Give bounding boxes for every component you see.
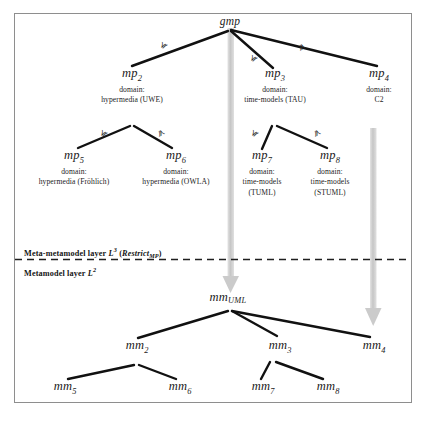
node-mp7-subscript: 7: [268, 156, 272, 165]
node-mp4-label: mp4: [366, 66, 392, 84]
edge-gmp-mp4: [231, 30, 377, 66]
upper-layer-qualifier-close: ): [159, 249, 162, 258]
node-mmUML-subscript: UML: [228, 296, 246, 305]
node-mp7[interactable]: mp7 domain: time-models (TUML): [242, 148, 281, 198]
edge-mm2-mm6: [139, 365, 176, 379]
node-mp3[interactable]: mp3 domain: time-models (TAU): [244, 66, 306, 106]
upper-layer-qualifier-sub: MP: [149, 252, 159, 259]
upper-layer-prefix: Meta-metamodel layer: [24, 249, 106, 258]
edge-mp2-mp5: [78, 126, 130, 148]
node-mp8-domain-label: domain:: [310, 167, 349, 177]
node-mm5-label: mm5: [54, 379, 77, 397]
node-gmp[interactable]: gmp: [220, 14, 240, 29]
lower-layer-prefix: Metamodel layer: [24, 269, 86, 278]
node-mp7-domain-value: time-models: [242, 177, 281, 187]
node-mp5[interactable]: mp5 domain: hypermedia (Fröhlich): [39, 148, 110, 188]
node-mm3-label: mm3: [269, 338, 292, 356]
node-mm8[interactable]: mm8: [317, 379, 340, 398]
figure-canvas: gmp mp2 domain: hypermedia (UWE) mp3 dom…: [0, 0, 428, 421]
node-mp5-domain-value: hypermedia (Fröhlich): [39, 177, 110, 187]
edge-mp2-mp6: [134, 126, 172, 148]
node-mp2-subscript: 2: [138, 74, 142, 83]
node-mp8-subscript: 8: [336, 156, 340, 165]
layer-label-metamodel: Metamodel layer L2: [24, 266, 96, 278]
node-mp2-domain-value: hypermedia (UWE): [101, 95, 163, 105]
mp2-subtree-edges: [78, 126, 172, 148]
node-mm7[interactable]: mm7: [252, 379, 275, 398]
node-mm4[interactable]: mm4: [363, 338, 386, 357]
node-mmUML[interactable]: mmUML: [210, 290, 247, 306]
node-mp3-subscript: 3: [281, 74, 285, 83]
node-mm5-subscript: 5: [72, 387, 76, 396]
node-mm8-subscript: 8: [335, 387, 339, 396]
lower-layer-exponent: 2: [93, 266, 96, 273]
mp3-subtree-edges: [262, 126, 327, 149]
node-mp6-domain-value: hypermedia (OWLA): [142, 177, 209, 187]
edge-mp3-mp7: [262, 126, 272, 149]
node-mp8-label: mp8: [310, 148, 349, 166]
node-mp3-label: mp3: [244, 66, 306, 84]
node-mm6-label: mm6: [169, 379, 192, 397]
node-mp8-domain-value: time-models: [310, 177, 349, 187]
node-mm3[interactable]: mm3: [269, 338, 292, 357]
upper-layer-exponent: 3: [114, 246, 117, 253]
node-mp4-domain-label: domain:: [366, 85, 392, 95]
node-mm5[interactable]: mm5: [54, 379, 77, 398]
edge-gmp-mp2: [132, 31, 228, 66]
node-mp4[interactable]: mp4 domain: C2: [366, 66, 392, 106]
node-mp8-domain-value-2: (STUML): [310, 188, 349, 198]
edge-gmp-mp3: [231, 31, 273, 68]
node-gmp-label: gmp: [220, 14, 240, 28]
node-mp6-subscript: 6: [182, 156, 186, 165]
edge-mm2-mm5: [68, 365, 134, 379]
node-mm2[interactable]: mm2: [126, 338, 149, 357]
node-mm3-subscript: 3: [287, 346, 291, 355]
node-mp6-domain-label: domain:: [142, 167, 209, 177]
mm3-subtree-edges: [261, 362, 323, 379]
edge-mm3-mm7: [261, 362, 270, 379]
edge-mm3-mm8: [276, 362, 323, 379]
mm2-subtree-edges: [68, 365, 176, 379]
upper-tree-edges: [132, 30, 377, 68]
node-mm6-subscript: 6: [187, 387, 191, 396]
node-mp8[interactable]: mp8 domain: time-models (STUML): [310, 148, 349, 198]
node-mmUML-label: mmUML: [210, 290, 247, 305]
diagram-graphics: [0, 0, 428, 421]
node-mm2-subscript: 2: [144, 346, 148, 355]
node-mp5-domain-label: domain:: [39, 167, 110, 177]
node-mp2-label: mp2: [101, 66, 163, 84]
node-mp2-domain-label: domain:: [101, 85, 163, 95]
node-mm4-subscript: 4: [381, 346, 385, 355]
node-mm2-label: mm2: [126, 338, 149, 356]
node-mp2[interactable]: mp2 domain: hypermedia (UWE): [101, 66, 163, 106]
node-mp5-subscript: 5: [80, 156, 84, 165]
node-mm8-label: mm8: [317, 379, 340, 397]
node-mp4-domain-value: C2: [366, 95, 392, 105]
node-mm7-label: mm7: [252, 379, 275, 397]
node-mp3-domain-label: domain:: [244, 85, 306, 95]
refinement-arrow-mp4-to-mm4: [365, 128, 382, 326]
node-mp6[interactable]: mp6 domain: hypermedia (OWLA): [142, 148, 209, 188]
layer-label-meta-metamodel: Meta-metamodel layer L3 (RestrictMP): [24, 246, 162, 259]
node-mp3-domain-value: time-models (TAU): [244, 95, 306, 105]
node-mp6-label: mp6: [142, 148, 209, 166]
node-mp7-domain-label: domain:: [242, 167, 281, 177]
node-mp7-domain-value-2: (TUML): [242, 188, 281, 198]
node-mp7-label: mp7: [242, 148, 281, 166]
lower-tree-edges: [138, 311, 370, 338]
node-mp5-label: mp5: [39, 148, 110, 166]
node-mp4-subscript: 4: [385, 74, 389, 83]
edge-mmUML-mm4: [232, 311, 370, 337]
edge-mmUML-mm2: [138, 311, 228, 338]
edge-mp3-mp8: [277, 126, 327, 148]
node-mm7-subscript: 7: [270, 387, 274, 396]
node-mm6[interactable]: mm6: [169, 379, 192, 398]
upper-layer-qualifier-name: Restrict: [122, 249, 149, 258]
node-mm4-label: mm4: [363, 338, 386, 356]
refinement-arrow-gmp-to-mmUML: [223, 28, 240, 293]
